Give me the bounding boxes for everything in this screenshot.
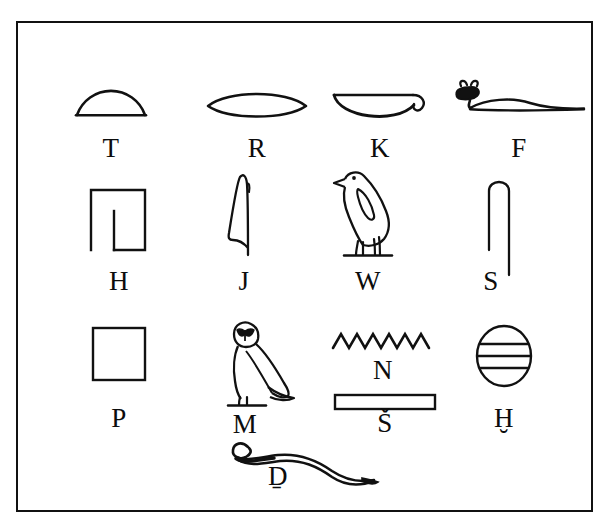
glyph-cell-m [218, 317, 314, 411]
wick-striped-circle-glyph [473, 323, 535, 389]
glyph-cell-p [90, 325, 148, 383]
horned-viper-glyph [450, 77, 588, 123]
cobra-snake-glyph [222, 433, 390, 493]
basket-with-handle-glyph [331, 85, 429, 127]
glyph-label-p: P [84, 405, 154, 432]
quail-chick-glyph [330, 163, 414, 263]
courtyard-plan-glyph [88, 187, 150, 253]
folded-cloth-glyph [478, 170, 522, 280]
reed-leaf-glyph [223, 170, 267, 258]
chart-border-frame: T R K [16, 21, 593, 512]
glyph-label-f: F [450, 135, 588, 162]
glyph-label-dj: Ḏ [250, 463, 306, 490]
mouth-lens-glyph [204, 87, 310, 123]
glyph-cell-dj [222, 433, 390, 493]
glyph-cell-t [72, 70, 150, 120]
glyph-cell-w [330, 163, 414, 263]
glyph-label-n: N [330, 357, 436, 384]
glyph-label-h: H [84, 268, 154, 295]
glyph-cell-h [88, 187, 150, 253]
glyph-cell-s [478, 170, 522, 280]
stool-square-glyph [90, 325, 148, 383]
glyph-label-s: S [463, 268, 519, 295]
water-ripple-zigzag-glyph [330, 329, 436, 353]
glyph-label-k: K [331, 135, 429, 162]
glyph-label-r: R [204, 135, 310, 162]
glyph-label-t: T [72, 135, 150, 162]
glyph-cell-r [204, 87, 310, 123]
glyph-label-w: W [323, 268, 413, 295]
glyph-cell-n [330, 329, 436, 353]
glyph-cell-j [223, 170, 267, 258]
glyph-cell-k [331, 85, 429, 127]
hieroglyph-chart-figure: T R K [0, 0, 603, 525]
glyph-cell-hh [473, 323, 535, 389]
owl-glyph [218, 317, 314, 411]
bread-loaf-semicircle-glyph [72, 70, 150, 120]
glyph-label-hh: Ḫ [473, 405, 535, 432]
glyph-label-j: J [214, 268, 274, 295]
glyph-cell-f [450, 77, 588, 123]
